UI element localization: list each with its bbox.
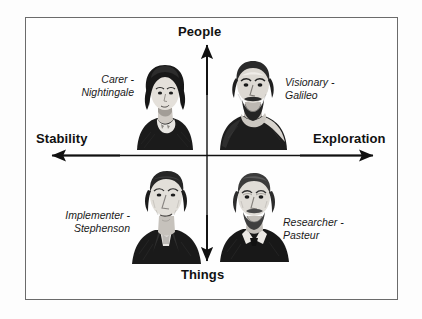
quadrant-person-nightingale: Nightingale (58, 86, 134, 99)
portrait-galileo-icon (216, 50, 290, 150)
diagram-page: People Things Stability Exploration Care… (0, 0, 422, 319)
axis-label-people: People (178, 24, 221, 39)
quadrant-role-carer: Carer - (58, 73, 134, 86)
quadrant-role-researcher: Researcher - (283, 216, 375, 229)
portrait-stephenson-icon (129, 162, 203, 264)
quadrant-person-galileo: Galileo (285, 89, 375, 102)
quadrant-label-carer: Carer - Nightingale (58, 73, 134, 99)
quadrant-label-researcher: Researcher - Pasteur (283, 216, 375, 242)
axis-label-stability: Stability (36, 131, 87, 146)
axis-label-exploration: Exploration (313, 131, 386, 146)
quadrant-person-pasteur: Pasteur (283, 229, 375, 242)
diagram-frame (25, 17, 398, 300)
quadrant-label-implementer: Implementer - Stephenson (34, 209, 130, 235)
quadrant-role-implementer: Implementer - (34, 209, 130, 222)
portrait-pasteur-icon (216, 164, 292, 262)
quadrant-person-stephenson: Stephenson (34, 222, 130, 235)
axis-label-things: Things (181, 267, 224, 282)
quadrant-role-visionary: Visionary - (285, 76, 375, 89)
portrait-nightingale-icon (131, 52, 197, 150)
quadrant-label-visionary: Visionary - Galileo (285, 76, 375, 102)
